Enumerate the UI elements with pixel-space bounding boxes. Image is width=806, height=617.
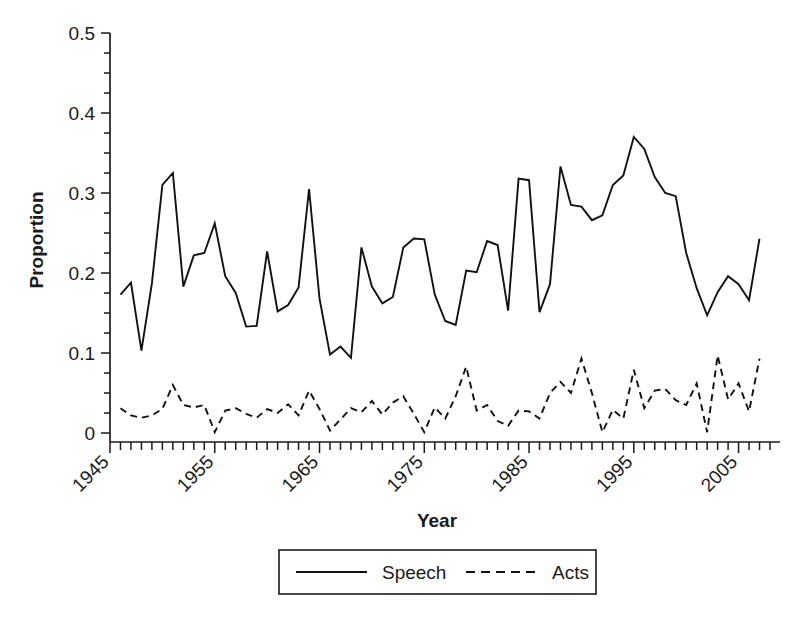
y-tick-label: 0.5 (69, 23, 95, 44)
x-axis-ticks (110, 442, 770, 453)
series-line-speech (120, 137, 759, 358)
y-tick-label: 0.1 (69, 343, 95, 364)
legend-label-speech: Speech (382, 562, 446, 583)
x-tick-label: 1945 (68, 451, 113, 496)
x-axis-tick-labels: 1945195519651975198519952005 (68, 451, 741, 496)
y-axis-title: Proportion (26, 191, 47, 288)
x-axis-title: Year (417, 510, 458, 531)
y-axis-tick-labels: 00.10.20.30.40.5 (69, 23, 96, 444)
chart-figure: 00.10.20.30.40.5 19451955196519751985199… (0, 0, 806, 617)
x-tick-label: 1965 (278, 451, 323, 496)
x-tick-label: 1995 (592, 451, 637, 496)
chart-legend: Speech Acts (279, 550, 596, 594)
series-line-acts (120, 355, 759, 432)
x-tick-label: 1955 (173, 451, 218, 496)
legend-label-acts: Acts (552, 562, 589, 583)
y-tick-label: 0.2 (69, 263, 95, 284)
y-tick-label: 0.3 (69, 183, 95, 204)
x-tick-label: 1975 (382, 451, 427, 496)
line-chart: 00.10.20.30.40.5 19451955196519751985199… (0, 0, 806, 617)
x-tick-label: 1985 (487, 451, 532, 496)
y-tick-label: 0 (84, 423, 95, 444)
y-tick-label: 0.4 (69, 103, 96, 124)
x-tick-label: 2005 (697, 451, 742, 496)
y-axis-ticks (101, 33, 110, 433)
